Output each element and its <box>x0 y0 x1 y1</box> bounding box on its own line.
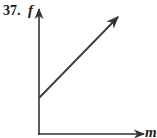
figure: 37. f m <box>0 0 157 138</box>
graph <box>0 0 157 138</box>
data-line <box>39 17 118 98</box>
